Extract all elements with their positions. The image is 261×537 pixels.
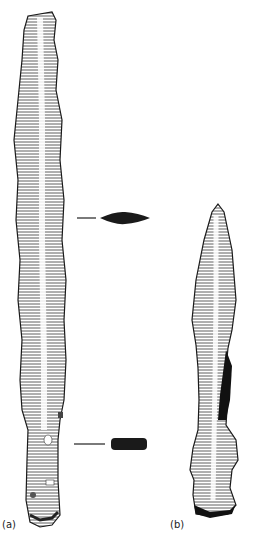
cross-section-tang: [74, 438, 147, 450]
figure-label-a: (a): [2, 519, 16, 530]
spearhead-b: [190, 204, 238, 518]
artifact-drawing: [0, 0, 261, 537]
cross-section-blade: [77, 212, 150, 224]
blade-a: [14, 12, 66, 527]
figure-label-b: (b): [170, 519, 184, 530]
